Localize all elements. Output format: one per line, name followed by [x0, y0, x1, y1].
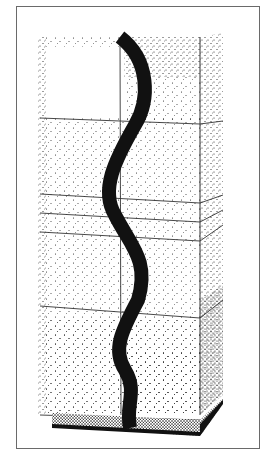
cabinet-illustration	[0, 0, 269, 462]
cabinet-side	[200, 33, 223, 415]
illustration-stage	[0, 0, 269, 462]
